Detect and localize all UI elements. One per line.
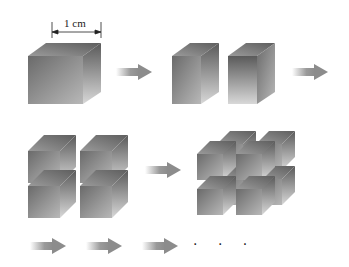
continuation-ellipsis: · · ·: [193, 236, 255, 252]
arrow-icon: [292, 64, 328, 80]
cube-division-diagram: [0, 0, 349, 267]
dimension-label: 1 cm: [64, 17, 86, 29]
arrow-icon: [145, 162, 181, 178]
arrow-icon: [116, 64, 152, 80]
arrow-icon: [142, 238, 178, 254]
single-cube: [28, 43, 101, 104]
cube-split-in-two: [172, 43, 275, 104]
cube-split-in-four: [28, 135, 128, 218]
arrow-icon: [86, 238, 122, 254]
cube-split-in-eight: [197, 131, 295, 215]
arrow-icon: [30, 238, 66, 254]
